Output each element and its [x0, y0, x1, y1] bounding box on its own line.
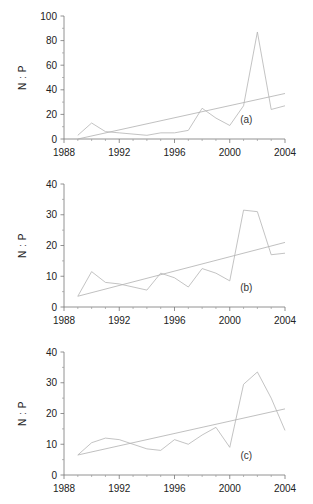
panel-a-xtick-1988: 1988 [53, 147, 76, 158]
panel-c-xtick-1996: 1996 [163, 483, 186, 494]
panel-c-xticks [64, 475, 285, 479]
panel-a-svg: 020406080100 19881992199620002004 N : P … [0, 0, 313, 168]
panel-a-yticklabels: 020406080100 [40, 11, 57, 145]
panel-a-yticks [61, 16, 65, 139]
panel-b-axes: 010203040 19881992199620002004 [46, 179, 297, 327]
panel-a-ytick-80: 80 [46, 35, 58, 46]
panel-b-svg: 010203040 19881992199620002004 N : P (b) [0, 168, 313, 336]
panel-b-xtick-1996: 1996 [163, 315, 186, 326]
panel-a-xtick-2004: 2004 [274, 147, 297, 158]
panel-b-ylabel: N : P [17, 233, 28, 258]
chart-panel-c: 010203040 19881992199620002004 N : P (c) [0, 336, 313, 504]
panel-c-xtick-1992: 1992 [108, 483, 131, 494]
panel-c-trend-line [78, 409, 285, 455]
panel-b-xtick-2004: 2004 [274, 315, 297, 326]
figure-multi-panel-chart: 020406080100 19881992199620002004 N : P … [0, 0, 313, 504]
panel-a-xtick-1992: 1992 [108, 147, 131, 158]
panel-c-xtick-2000: 2000 [219, 483, 242, 494]
panel-c-yticks [61, 352, 65, 475]
panel-c-svg: 010203040 19881992199620002004 N : P (c) [0, 336, 313, 504]
panel-c-ylabel: N : P [17, 401, 28, 426]
panel-c-axes: 010203040 19881992199620002004 [46, 347, 297, 495]
panel-a-ytick-100: 100 [40, 11, 57, 22]
panel-b-ytick-20: 20 [46, 240, 58, 251]
panel-a-xtick-1996: 1996 [163, 147, 186, 158]
panel-a-ylabel: N : P [17, 65, 28, 90]
panel-b-data-line [78, 210, 285, 296]
panel-b-xticklabels: 19881992199620002004 [53, 315, 297, 326]
panel-b-label: (b) [240, 282, 252, 293]
panel-b-trend-line [78, 242, 285, 296]
panel-c-xtick-1988: 1988 [53, 483, 76, 494]
panel-a-ytick-40: 40 [46, 84, 58, 95]
panel-a-ytick-0: 0 [51, 134, 57, 145]
panel-a-label: (a) [240, 114, 252, 125]
panel-a-data-line [78, 32, 285, 135]
panel-a-ytick-20: 20 [46, 109, 58, 120]
panel-c-data-line [78, 372, 285, 455]
panel-c-ytick-10: 10 [46, 439, 58, 450]
panel-a-ytick-60: 60 [46, 60, 58, 71]
panel-c-xtick-2004: 2004 [274, 483, 297, 494]
chart-panel-b: 010203040 19881992199620002004 N : P (b) [0, 168, 313, 336]
panel-c-ytick-20: 20 [46, 408, 58, 419]
panel-b-ytick-30: 30 [46, 209, 58, 220]
panel-c-ytick-40: 40 [46, 347, 58, 358]
panel-c-label: (c) [240, 450, 252, 461]
panel-b-yticklabels: 010203040 [46, 179, 58, 313]
panel-a-xticks [64, 139, 285, 143]
chart-panel-a: 020406080100 19881992199620002004 N : P … [0, 0, 313, 168]
panel-b-ytick-0: 0 [51, 302, 57, 313]
panel-b-xtick-1992: 1992 [108, 315, 131, 326]
panel-c-ytick-0: 0 [51, 470, 57, 481]
panel-b-ytick-40: 40 [46, 179, 58, 190]
panel-a-xtick-2000: 2000 [219, 147, 242, 158]
panel-c-yticklabels: 010203040 [46, 347, 58, 481]
panel-b-xtick-1988: 1988 [53, 315, 76, 326]
panel-b-ytick-10: 10 [46, 271, 58, 282]
panel-a-axes: 020406080100 19881992199620002004 [40, 11, 296, 159]
panel-b-yticks [61, 184, 65, 307]
panel-b-xticks [64, 307, 285, 311]
panel-c-ytick-30: 30 [46, 377, 58, 388]
panel-b-xtick-2000: 2000 [219, 315, 242, 326]
panel-a-xticklabels: 19881992199620002004 [53, 147, 297, 158]
panel-c-xticklabels: 19881992199620002004 [53, 483, 297, 494]
